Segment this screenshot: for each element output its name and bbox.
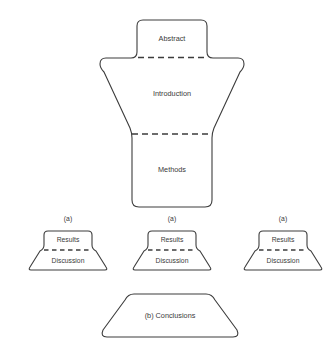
conclusions-group: (b) Conclusions [102,294,238,337]
label-introduction: Introduction [153,89,191,98]
caption-a-right: (a) [279,215,287,223]
unit-left-group: (a) Results Discussion [29,215,107,270]
label-discussion-right: Discussion [267,257,300,264]
label-results-left: Results [57,236,80,243]
label-results-center: Results [161,236,184,243]
label-results-right: Results [272,236,295,243]
label-abstract: Abstract [159,34,186,43]
unit-right-group: (a) Results Discussion [244,215,322,270]
main-funnel-outline [100,20,244,207]
label-discussion-left: Discussion [52,257,85,264]
main-funnel-group: Abstract Introduction Methods [100,20,244,207]
diagram-canvas: Abstract Introduction Methods (a) Result… [0,0,336,362]
caption-a-center: (a) [168,215,176,223]
label-discussion-center: Discussion [156,257,189,264]
label-conclusions: (b) Conclusions [145,311,196,320]
label-methods: Methods [158,165,186,174]
unit-center-group: (a) Results Discussion [133,215,211,270]
caption-a-left: (a) [64,215,72,223]
